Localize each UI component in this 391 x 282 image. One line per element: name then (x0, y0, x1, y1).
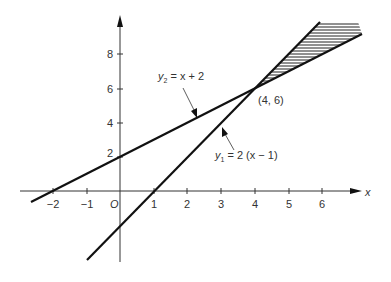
intersection-label: (4, 6) (258, 94, 284, 106)
x-axis: −2 −1 1 2 3 4 5 6 x O (20, 186, 371, 210)
x-tick-label: 5 (286, 198, 292, 210)
graph-figure: −2 −1 1 2 3 4 5 6 x O 2 4 6 8 (0, 0, 391, 282)
x-tick-label: 1 (151, 198, 157, 210)
x-tick-label: 6 (319, 198, 325, 210)
y-axis-arrow-icon (117, 15, 123, 27)
origin-label: O (110, 198, 119, 210)
x-tick-label: −2 (47, 198, 60, 210)
x-tick-label: −1 (81, 198, 94, 210)
x-axis-arrow-icon (350, 188, 362, 194)
line-y1 (87, 22, 320, 260)
line-y2 (31, 34, 362, 202)
y-tick-label: 2 (107, 147, 113, 159)
y2-leader (183, 88, 197, 118)
y2-equation-label: y2= x + 2 (157, 70, 204, 84)
y-tick-label: 4 (107, 117, 113, 129)
x-tick-label: 3 (218, 198, 224, 210)
y-tick-label: 6 (107, 83, 113, 95)
x-axis-label: x (364, 186, 371, 198)
leader-arrow-icon (222, 127, 228, 137)
y1-leader (222, 127, 234, 150)
x-tick-label: 2 (184, 198, 190, 210)
y1-equation-label: y1= 2 (x − 1) (214, 149, 278, 163)
x-tick-label: 4 (252, 198, 258, 210)
y-tick-label: 8 (107, 48, 113, 60)
leader-arrow-icon (191, 108, 197, 118)
